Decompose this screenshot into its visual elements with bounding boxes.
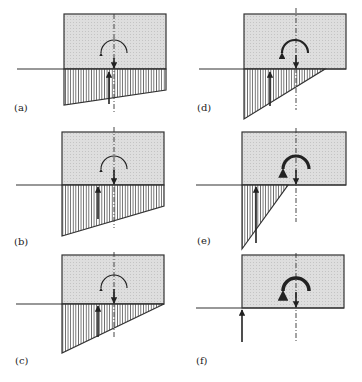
panel-label: (d) <box>197 102 211 113</box>
footing-pressure-diagram: (a) (d) (b) (e) <box>0 0 362 382</box>
panel-d: (d) <box>197 8 346 119</box>
footing-block <box>244 14 346 69</box>
panel-label: (f) <box>196 355 208 366</box>
panel-c: (c) <box>15 252 164 366</box>
pressure-distribution <box>244 69 325 119</box>
panel-label: (e) <box>197 235 211 246</box>
footing-block <box>242 132 346 185</box>
pressure-distribution <box>62 185 164 236</box>
panel-f: (f) <box>196 253 344 366</box>
pressure-distribution <box>242 185 288 249</box>
pressure-distribution <box>64 69 166 105</box>
panel-e: (e) <box>196 128 346 249</box>
panel-label: (a) <box>14 102 28 113</box>
footing-block <box>64 14 166 69</box>
footing-block <box>242 255 344 308</box>
panel-a: (a) <box>14 14 166 113</box>
pressure-distribution <box>62 304 164 353</box>
panel-label: (c) <box>15 355 29 366</box>
panel-label: (b) <box>14 236 28 247</box>
footing-block <box>62 132 164 185</box>
footing-block <box>62 255 164 304</box>
panel-b: (b) <box>14 127 164 247</box>
